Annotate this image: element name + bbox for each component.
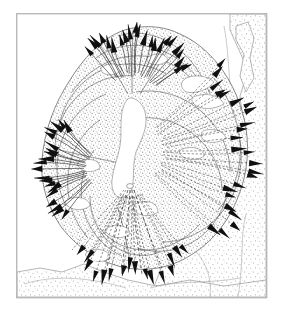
radial-flow-arrows-south-arrowhead [143, 268, 148, 279]
source-marker [127, 184, 134, 189]
radial-flow-arrows-south-arrowhead [121, 265, 127, 276]
figure-root [0, 0, 283, 317]
radial-flow-arrows-west-arrowhead [34, 160, 47, 165]
radial-flow-arrows-west-arrowhead [31, 166, 42, 172]
map-figure-svg [0, 0, 283, 317]
